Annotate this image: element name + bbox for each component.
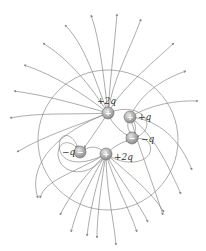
charge-c4: + <box>100 148 112 160</box>
svg-text:−: − <box>77 148 84 157</box>
svg-text:+: + <box>105 109 112 118</box>
charge-c5: − <box>74 146 86 158</box>
field-lines-bottom <box>36 113 164 245</box>
charge-c1: + <box>102 107 114 119</box>
charge-label-c3: −q <box>141 134 155 144</box>
outer-field-loop <box>38 70 178 210</box>
charge-label-c5: −q <box>62 147 76 157</box>
svg-text:−: − <box>129 134 136 143</box>
charge-c3: − <box>126 132 138 144</box>
svg-text:+: + <box>103 150 110 159</box>
charge-label-c4: +2q <box>114 152 133 162</box>
field-lines-svg: + + − + − +2q +q −q +2q −q <box>0 0 206 251</box>
svg-text:+: + <box>127 113 134 122</box>
charge-label-c1: +2q <box>97 96 116 106</box>
charge-c2: + <box>124 111 136 123</box>
charge-label-c2: +q <box>138 112 152 122</box>
field-diagram: + + − + − +2q +q −q +2q −q <box>0 0 206 251</box>
